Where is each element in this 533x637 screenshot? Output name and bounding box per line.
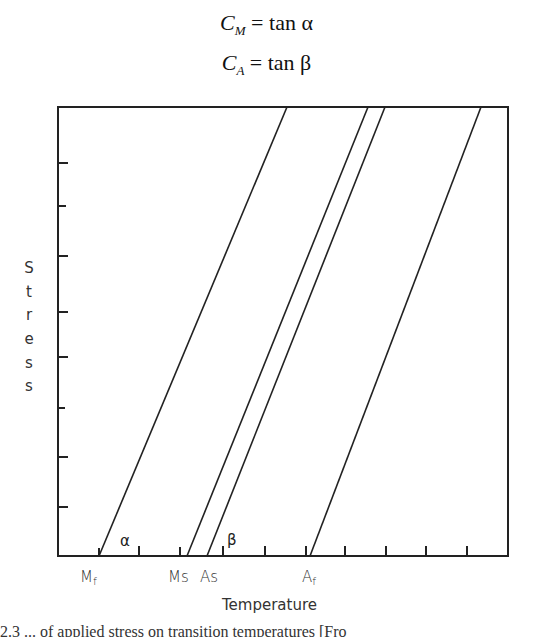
marker-af: Af [302, 568, 316, 588]
svg-text:r: r [26, 306, 33, 324]
stress-temperature-chart: α β Mf Ms As Af Temperature S t r e s s [0, 0, 533, 637]
y-axis-label: S t r e s s [24, 259, 34, 395]
line-as [207, 107, 385, 556]
marker-mf: Mf [80, 568, 97, 588]
alpha-label: α [120, 532, 130, 550]
svg-text:s: s [25, 377, 33, 395]
figure-caption-partial: 2.3 ... of applied stress on transition … [0, 623, 533, 637]
beta-label: β [227, 531, 237, 549]
svg-text:s: s [25, 354, 33, 372]
svg-text:e: e [24, 330, 33, 348]
plot-frame [58, 107, 508, 556]
x-ticks [99, 546, 467, 556]
line-ms [187, 107, 368, 556]
line-af [310, 107, 481, 556]
marker-as: As [200, 568, 218, 586]
marker-ms: Ms [168, 568, 189, 586]
transition-lines [99, 107, 481, 556]
y-ticks [58, 163, 68, 507]
svg-text:t: t [26, 283, 32, 301]
x-axis-label: Temperature [221, 596, 317, 614]
line-mf [99, 107, 287, 556]
svg-text:S: S [24, 259, 34, 277]
